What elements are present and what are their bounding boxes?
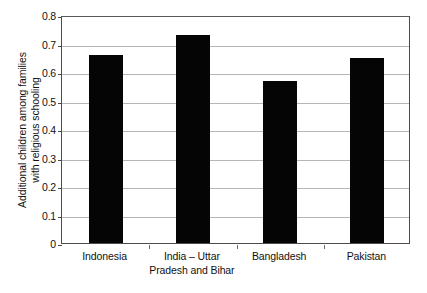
y-axis-tick-label: 0.6 (34, 67, 56, 79)
y-axis-tick-mark (58, 74, 62, 75)
x-axis-category-label-line: Pradesh and Bihar (148, 263, 235, 277)
bar[interactable] (350, 58, 384, 243)
y-axis-tick-label: 0.7 (34, 39, 56, 51)
y-axis-tick-label: 0.3 (34, 153, 56, 165)
x-axis-category-label-line: Pakistan (347, 250, 386, 262)
y-axis-tick-mark (58, 103, 62, 104)
y-axis-title-line-1: Additional children among families (16, 52, 29, 208)
y-axis-tick-mark (58, 245, 62, 246)
y-axis-tick-label: 0 (34, 238, 56, 250)
y-axis-tick-label: 0.5 (34, 96, 56, 108)
x-axis-category-label-line: India – Uttar (164, 250, 220, 262)
y-axis-tick-mark (58, 17, 62, 18)
x-axis-category-label: Bangladesh (236, 249, 323, 263)
plot-area (61, 16, 410, 244)
y-axis-tick-mark (58, 188, 62, 189)
y-axis-tick-mark (58, 46, 62, 47)
y-axis-tick-label: 0.8 (34, 10, 56, 22)
x-axis-category-label-line: Indonesia (82, 250, 127, 262)
x-axis-category-label: India – UttarPradesh and Bihar (148, 249, 235, 277)
y-axis-tick-mark (58, 217, 62, 218)
bar[interactable] (263, 81, 297, 243)
x-axis-category-label-line: Bangladesh (252, 250, 306, 262)
y-axis-tick-label: 0.1 (34, 210, 56, 222)
y-axis-tick-labels: 00.10.20.30.40.50.60.70.8 (34, 0, 56, 293)
y-axis-tick-mark (58, 131, 62, 132)
gridline (62, 46, 409, 47)
bar[interactable] (89, 55, 123, 243)
chart-screenshot: Additional children among families with … (0, 0, 427, 293)
bar[interactable] (176, 35, 210, 243)
y-axis-tick-mark (58, 160, 62, 161)
x-axis-category-label: Pakistan (323, 249, 410, 263)
x-axis-category-labels: IndonesiaIndia – UttarPradesh and BiharB… (61, 249, 410, 291)
x-axis-category-label: Indonesia (61, 249, 148, 263)
y-axis-tick-label: 0.4 (34, 124, 56, 136)
y-axis-tick-label: 0.2 (34, 181, 56, 193)
